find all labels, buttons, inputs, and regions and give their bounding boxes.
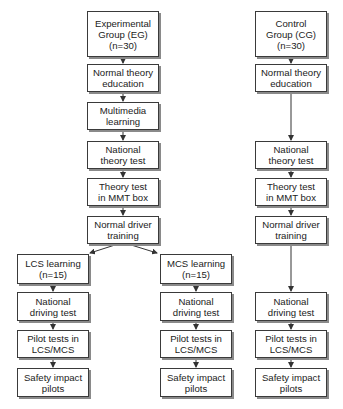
lcs-safety-impact-pilots-box: Safety impact pilots (17, 368, 89, 397)
cg-national-driving-test-box: National driving test (255, 292, 327, 321)
control-group-box: Control Group (CG) (n=30) (255, 11, 327, 57)
experimental-group-box: Experimental Group (EG) (n=30) (87, 11, 159, 57)
cg-pilot-tests-box: Pilot tests in LCS/MCS (255, 330, 327, 358)
study-design-flowchart: Experimental Group (EG) (n=30) Normal th… (0, 0, 343, 409)
mcs-pilot-tests-box: Pilot tests in LCS/MCS (160, 330, 232, 358)
eg-theory-test-mmt-box: Theory test in MMT box (87, 178, 159, 206)
mcs-learning-box: MCS learning (n=15) (160, 254, 232, 284)
lcs-pilot-tests-box: Pilot tests in LCS/MCS (17, 330, 89, 358)
mcs-national-driving-test-box: National driving test (160, 292, 232, 321)
eg-multimedia-learning-box: Multimedia learning (87, 102, 159, 130)
lcs-national-driving-test-box: National driving test (17, 292, 89, 321)
eg-national-theory-test-box: National theory test (87, 141, 159, 169)
mcs-safety-impact-pilots-box: Safety impact pilots (160, 368, 232, 397)
cg-normal-theory-education-box: Normal theory education (255, 64, 327, 92)
cg-safety-impact-pilots-box: Safety impact pilots (255, 368, 327, 397)
eg-normal-driver-training-box: Normal driver training (87, 216, 159, 244)
cg-national-theory-test-box: National theory test (255, 141, 327, 169)
eg-normal-theory-education-box: Normal theory education (87, 64, 159, 92)
cg-theory-test-mmt-box: Theory test in MMT box (255, 178, 327, 206)
lcs-learning-box: LCS learning (n=15) (17, 254, 89, 284)
cg-normal-driver-training-box: Normal driver training (255, 216, 327, 244)
